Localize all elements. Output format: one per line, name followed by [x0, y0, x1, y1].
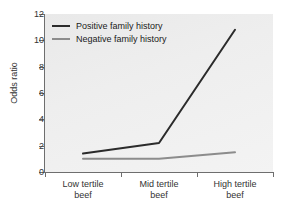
y-axis-tick-label: 2 — [8, 142, 44, 151]
x-axis-category-label-line: beef — [120, 190, 198, 201]
x-axis-tick — [121, 172, 122, 177]
x-axis-category-label: Low tertilebeef — [44, 179, 122, 201]
y-axis-line — [44, 14, 45, 172]
x-axis-category-label-line: High tertile — [196, 179, 274, 190]
x-axis-tick — [273, 172, 274, 177]
chart-legend: Positive family historyNegative family h… — [52, 19, 182, 45]
x-axis-category-label-line: beef — [196, 190, 274, 201]
x-axis-tick — [197, 172, 198, 177]
x-axis-category-label-line: Low tertile — [44, 179, 122, 190]
y-axis-tick-label: 12 — [8, 10, 44, 19]
series-line-positive-family-history — [83, 30, 235, 154]
legend-item-label: Positive family history — [76, 21, 163, 31]
x-axis-category-label-line: Mid tertile — [120, 179, 198, 190]
legend-line-swatch — [52, 25, 70, 27]
series-line-negative-family-history — [83, 152, 235, 159]
y-axis-title: Odds ratio — [9, 33, 19, 133]
legend-line-swatch — [52, 38, 70, 40]
legend-item: Positive family history — [52, 19, 182, 32]
x-axis-line — [44, 172, 273, 173]
x-axis-category-label: High tertilebeef — [196, 179, 274, 201]
legend-item: Negative family history — [52, 32, 182, 45]
odds-ratio-line-chart: 024681012 Low tertilebeefMid tertilebeef… — [0, 0, 285, 214]
x-axis-tick — [45, 172, 46, 177]
x-axis-category-label-line: beef — [44, 190, 122, 201]
x-axis-category-label: Mid tertilebeef — [120, 179, 198, 201]
legend-item-label: Negative family history — [76, 34, 167, 44]
y-axis-tick-label: 0 — [8, 168, 44, 177]
